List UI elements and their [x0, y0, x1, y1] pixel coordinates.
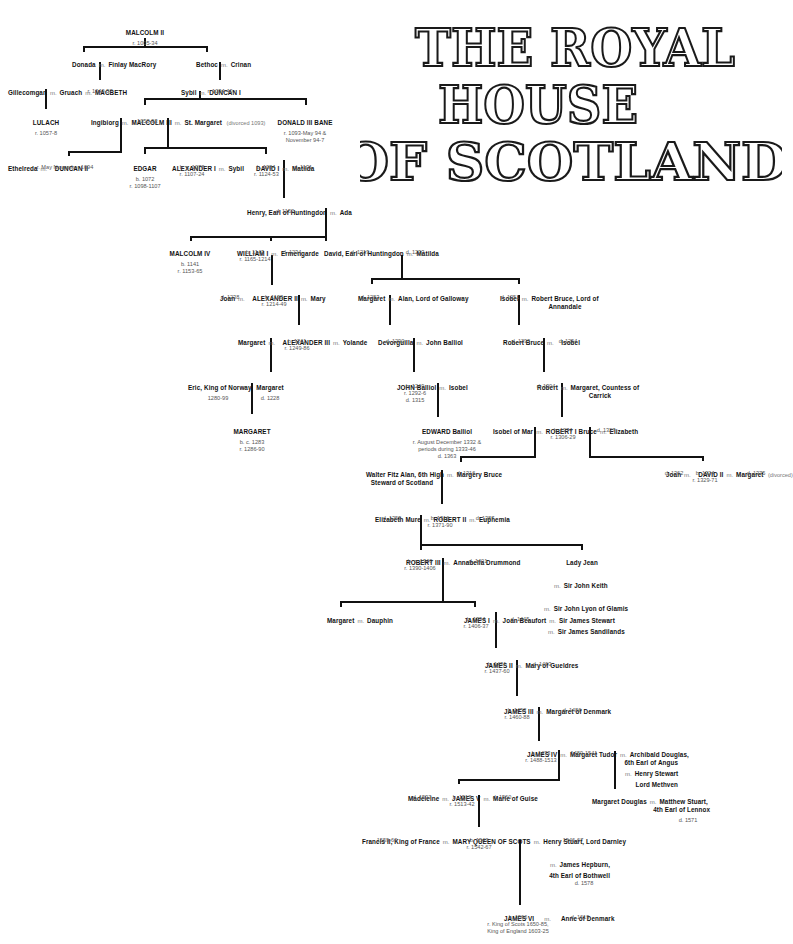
walter-line-2: Steward of Scotland: [370, 470, 434, 490]
couple-bethoc-crinan: Bethocm.Crinan: [196, 52, 251, 72]
malcolm-iii-reign: r. 1058-93: [130, 118, 160, 125]
connector: [589, 456, 704, 458]
david-ii-dates: b. 1324 r. 1329-71: [692, 470, 718, 484]
james-v-dates: b. 1512 r. 1513-42: [448, 794, 476, 808]
connector: [518, 278, 520, 284]
isobel-dates: d. 1251: [500, 294, 520, 301]
marie-guise-dates: d. 1560: [490, 794, 514, 801]
connector: [474, 601, 476, 607]
connector: [68, 151, 122, 153]
madeleine-dates: d. 1537: [410, 794, 434, 801]
duncan-ii-reign: r. May November 1094: [35, 164, 95, 171]
matthew-line-2: 4th Earl of Lennox d. 1571: [646, 797, 710, 824]
connector: [371, 278, 520, 280]
david-huntingdon-dates: d. 1219: [348, 249, 372, 256]
james-ii-dates: b. 1431 r. 1437-60: [483, 661, 511, 675]
connector: [144, 147, 146, 154]
euphemia-dates: d. 1387: [473, 515, 497, 522]
robert-ii-dates: b. 1316 r. 1371-90: [425, 515, 455, 529]
couple-margaret-dauphin: Margaretm.Dauphin: [327, 608, 393, 628]
james-iii-dates: b. 1452 r. 1460-88: [503, 707, 531, 721]
robert-iii-dates: b. c. 1340 r. 1390-1406: [403, 558, 437, 572]
person-edward-balliol: EDWARD Balliol r. August December 1332 &…: [405, 419, 489, 460]
isobel2-dates: d. 1254: [556, 338, 580, 345]
mary-qos-dates: b. 1542 r. 1542-67: [464, 837, 494, 851]
mary-gueldres-dates: d. 1463: [530, 661, 554, 668]
connector: [458, 779, 460, 784]
annabella-dates: d. 1401: [466, 558, 490, 565]
person-malcolm-ii: MALCOLM II r. 1005-34: [110, 20, 180, 47]
connector: [144, 98, 146, 105]
connector: [519, 840, 521, 905]
henry-stewart: m.Henry Stewart Lord Methven: [622, 761, 678, 789]
person-edgar: EDGAR b. 1072 r. 1098-1107: [128, 156, 162, 190]
connector: [340, 601, 475, 603]
matilda-dates: d. 1131: [292, 164, 314, 171]
matilda2-dates: d. 1233: [403, 249, 427, 256]
anne-denmark-dates: d. 1619: [568, 914, 592, 921]
carrick-line: Carrick: [580, 383, 620, 403]
robert-bruce-dates: d. 1295: [508, 338, 534, 345]
duncan-i-reign: r. 1034-40: [205, 88, 235, 95]
bothwell: m.James Hepburn, 4th Earl of Bothwell d.…: [536, 852, 610, 887]
ermengarde-dates: d. 1234: [280, 249, 304, 256]
robert-dates: d. 1304: [534, 383, 558, 390]
alexander-ii-dates: b. 1198 r. 1214-49: [260, 294, 288, 308]
connector: [702, 456, 704, 461]
elizabeth-mure-dates: d. 1355: [380, 515, 404, 522]
alexander-i-dates: b. c. 1078 r. 1107-24: [178, 164, 206, 178]
connector: [371, 278, 373, 284]
person-margaret-maid: MARGARET b. c. 1283 r. 1286-90: [232, 419, 272, 453]
connector: [144, 147, 266, 149]
margery-dates: d. 1316: [454, 470, 478, 477]
joan-dates: d. 1238: [218, 294, 242, 301]
margaret-drummond-dates: d. 1375: [744, 470, 768, 477]
francis-ii-dates: 1559-60: [372, 837, 402, 844]
annandale-line: Annandale: [540, 294, 590, 314]
james-iv-dates: b. 1473 r. 1488-1513: [524, 750, 558, 764]
john-balliol-dates: b. 1249 r. 1292-6 d. 1315: [400, 383, 430, 404]
margaret-denmark-dates: d. 1486: [560, 707, 584, 714]
connector: [458, 779, 560, 781]
connector: [340, 601, 342, 607]
macbeth-reign: r. 1040-57: [85, 88, 115, 95]
person-margaret-norway: Margaret d. 1228: [255, 375, 285, 402]
person-malcolm-iv: MALCOLM IV b. 1141 r. 1153-65: [168, 241, 212, 275]
david-i-dates: b. 1084 r. 1124-53: [254, 164, 278, 178]
joan-beaufort-dates: d. 1445: [508, 616, 532, 623]
couple-malcolm-iii: Ingibiorgm.MALCOLM IIIm.St. Margaret (di…: [91, 110, 265, 130]
james-vi-dates: b. 1566 r. King of Scots 1650-85, King o…: [486, 914, 550, 935]
alexander-iii-dates: b. 1241 r. 1249-86: [282, 338, 312, 352]
william-i-dates: b. 1143 r. 1165-1214: [236, 249, 274, 263]
robert-i-dates: b. 1274 r. 1306-29: [548, 427, 578, 441]
margaret-galloway-dates: d. 1283: [358, 294, 382, 301]
henry-dates: d. 1152: [270, 208, 300, 215]
james-i-dates: b. 1394 r. 1406-37: [462, 616, 490, 630]
person-name: MALCOLM II: [126, 29, 164, 36]
elizabeth-dates: d. 1327: [594, 427, 618, 434]
connector: [305, 98, 307, 105]
person-lulach: LULACH r. 1057-8: [30, 110, 62, 137]
devorguilla-dates: d. 1290: [380, 338, 410, 345]
margaret-tudor-dates: 1489-1541: [567, 750, 601, 757]
person-donald-iii: DONALD III BANE r. 1093-May 94 & Novembe…: [272, 110, 338, 144]
connector: [420, 544, 583, 546]
person-eric-norway: Eric, King of Norway 1280-99: [188, 375, 248, 402]
joan2-dates: d. 1362: [662, 470, 686, 477]
darnley-dates: 1546-67: [558, 837, 588, 844]
connector: [190, 236, 327, 238]
connector: [265, 147, 267, 154]
couple-donada-finlay: Donadam.Finlay MacRory: [72, 52, 156, 72]
